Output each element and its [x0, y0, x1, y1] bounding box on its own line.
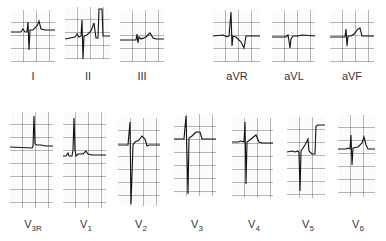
ecg-strip-V5 — [287, 117, 325, 198]
ecg-strip-V4 — [232, 118, 273, 198]
ecg-strip-aVR — [213, 10, 260, 62]
lead-label-V3: V3 — [177, 218, 217, 233]
ecg-strip-aVL — [272, 10, 315, 62]
lead-label-V5: V5 — [288, 218, 328, 233]
lead-label-III: III — [122, 70, 162, 82]
ecg-strip-aVF — [330, 10, 374, 62]
lead-label-I: I — [13, 70, 53, 82]
lead-label-aVL: aVL — [274, 70, 314, 82]
lead-label-II: II — [68, 70, 108, 82]
ecg-strip-V3 — [174, 114, 216, 196]
ecg-strip-V3R — [10, 112, 53, 208]
ecg-strip-V2 — [118, 118, 160, 206]
lead-label-V3R: V3R — [13, 218, 53, 233]
ecg-strip-V6 — [338, 115, 375, 197]
ecg-strip-I — [11, 10, 55, 62]
lead-label-V4: V4 — [234, 218, 274, 233]
ecg-strip-III — [120, 10, 164, 62]
lead-label-V6: V6 — [338, 218, 378, 233]
ecg-strip-V1 — [63, 112, 106, 208]
lead-label-V1: V1 — [66, 218, 106, 233]
ecg-strip-II — [65, 7, 110, 59]
lead-label-V2: V2 — [121, 218, 161, 233]
lead-label-aVR: aVR — [217, 70, 257, 82]
lead-label-aVF: aVF — [332, 70, 372, 82]
